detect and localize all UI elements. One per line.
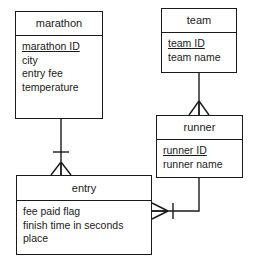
entity-team-title: team: [162, 9, 236, 33]
relationship-team-runner: [189, 73, 209, 115]
entity-marathon[interactable]: marathon marathon ID city entry fee temp…: [15, 11, 103, 119]
attribute-team-name: team name: [168, 51, 231, 65]
entity-team-attributes: team ID team name: [162, 33, 236, 68]
cardinality-many-crowsfoot-entry-right: [152, 203, 168, 219]
attribute-runner-name: runner name: [163, 158, 237, 172]
entity-entry[interactable]: entry fee paid flag finish time in secon…: [16, 175, 152, 255]
entity-runner-attributes: runner ID runner name: [157, 140, 242, 175]
attribute-temperature: temperature: [22, 81, 97, 95]
attribute-fee-paid-flag: fee paid flag: [23, 205, 146, 219]
cardinality-many-crowsfoot-entry-top: [51, 162, 71, 175]
entity-entry-attributes: fee paid flag finish time in seconds pla…: [17, 201, 151, 250]
attribute-runner-id: runner ID: [163, 144, 237, 158]
relationship-runner-entry: [152, 178, 199, 219]
relationship-marathon-entry: [51, 119, 71, 175]
entity-entry-title: entry: [17, 176, 151, 201]
attribute-place: place: [23, 232, 146, 246]
attribute-city: city: [22, 54, 97, 68]
entity-marathon-attributes: marathon ID city entry fee temperature: [16, 36, 102, 98]
entity-runner[interactable]: runner runner ID runner name: [156, 115, 243, 178]
attribute-marathon-id: marathon ID: [22, 40, 97, 54]
entity-marathon-title: marathon: [16, 12, 102, 36]
attribute-team-id: team ID: [168, 37, 231, 51]
cardinality-many-crowsfoot-runner-top: [189, 101, 209, 115]
entity-runner-title: runner: [157, 116, 242, 140]
attribute-finish-time-in-seconds: finish time in seconds: [23, 219, 146, 233]
er-diagram-canvas: marathon marathon ID city entry fee temp…: [0, 0, 258, 268]
attribute-entry-fee: entry fee: [22, 67, 97, 81]
entity-team[interactable]: team team ID team name: [161, 8, 237, 73]
